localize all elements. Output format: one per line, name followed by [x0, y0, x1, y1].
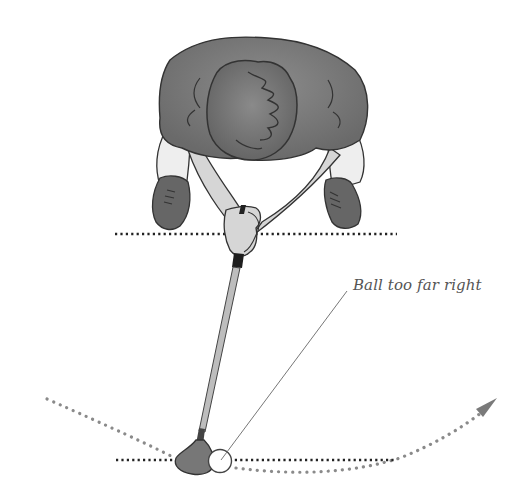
golfer	[153, 37, 368, 256]
annotation-label: Ball too far right	[353, 276, 482, 294]
annotation-leader-line	[221, 291, 347, 460]
club-grip	[232, 253, 244, 268]
golf-ball	[209, 450, 232, 473]
club-head	[175, 440, 214, 475]
golf-diagram: Ball too far right	[0, 0, 529, 499]
swing-path-arc	[47, 399, 486, 472]
diagram-illustration	[0, 0, 529, 499]
